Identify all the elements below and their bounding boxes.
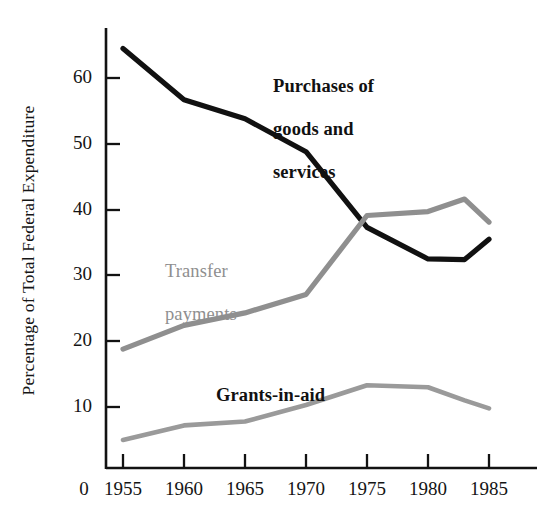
x-tick-label-1960: 1960	[156, 478, 212, 500]
series-annotation-purchases-line3: services	[273, 162, 335, 182]
series-annotation-grants: Grants-in-aid	[216, 364, 325, 407]
y-tick-label-30: 30	[58, 263, 92, 285]
y-tick-label-60: 60	[58, 66, 92, 88]
series-annotation-purchases-line1: Purchases of	[273, 76, 374, 96]
series-annotation-transfer-line2: payments	[165, 304, 237, 324]
x-tick-label-1980: 1980	[400, 478, 456, 500]
x-tick-label-1955: 1955	[95, 478, 151, 500]
series-annotation-transfer-line1: Transfer	[165, 261, 228, 281]
series-annotation-purchases-line2: goods and	[273, 119, 354, 139]
x-tick-label-1970: 1970	[278, 478, 334, 500]
x-axis-ticks	[123, 454, 489, 468]
y-tick-label-10: 10	[58, 395, 92, 417]
y-tick-label-20: 20	[58, 329, 92, 351]
y-tick-label-50: 50	[58, 132, 92, 154]
series-annotation-transfer: Transfer payments	[165, 240, 237, 326]
y-axis-title: Percentage of Total Federal Expenditure	[18, 41, 39, 461]
y-tick-label-40: 40	[58, 198, 92, 220]
x-tick-label-1975: 1975	[339, 478, 395, 500]
y-axis-ticks	[106, 78, 120, 407]
x-tick-label-1965: 1965	[217, 478, 273, 500]
chart-figure: Percentage of Total Federal Expenditure …	[0, 0, 549, 523]
x-tick-label-1985: 1985	[461, 478, 517, 500]
series-annotation-grants-line1: Grants-in-aid	[216, 385, 325, 405]
series-annotation-purchases: Purchases of goods and services	[273, 55, 374, 184]
